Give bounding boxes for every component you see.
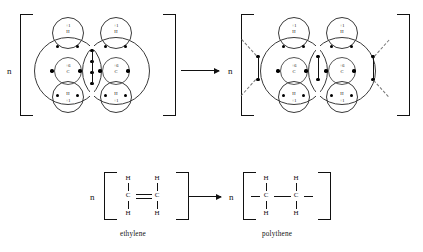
polythene-bracket-close <box>318 172 331 220</box>
polythene-bond-top-left <box>266 183 267 191</box>
dashed-chain-lower-right <box>373 80 388 97</box>
hydrogen-charge-top-right-2: +1 <box>326 24 358 28</box>
ethylene-caption: ethylene <box>120 230 146 238</box>
carbon-charge-left: +6 <box>54 64 82 68</box>
polythene-chain-bond-right <box>304 196 313 197</box>
ethylene-double-bond-upper <box>136 194 152 195</box>
reaction-arrow-top <box>181 70 219 71</box>
ethylene-bond-bottom-left <box>128 201 129 209</box>
polythene-hydrogen-bottom-right: H <box>291 210 301 217</box>
right-structure-multiplier: n <box>228 66 233 76</box>
ethylene-carbon-left: C <box>123 192 133 199</box>
ethylene-bracket-open <box>104 172 117 220</box>
carbon-charge-right-2: +6 <box>328 64 356 68</box>
polythene-bond-top-right <box>296 183 297 191</box>
polythene-chain-bond-left <box>251 196 260 197</box>
ethylene-hydrogen-bottom-right: H <box>152 210 162 217</box>
left-bracket-close <box>163 14 176 116</box>
polythene-bond-bottom-right <box>296 201 297 209</box>
polythene-multiplier: n <box>229 192 234 202</box>
left-bracket-open <box>20 14 33 116</box>
polythene-hydrogen-bottom-left: H <box>261 210 271 217</box>
electron-inner-left-1 <box>50 69 53 72</box>
ethylene-hydrogen-top-left: H <box>123 175 133 182</box>
right-bracket-open <box>241 14 254 116</box>
ethylene-hydrogen-top-right: H <box>152 175 162 182</box>
polythene-carbon-left: C <box>261 192 271 199</box>
chain-connector-left <box>258 57 259 79</box>
polythene-bond-bottom-left <box>266 201 267 209</box>
left-structure-multiplier: n <box>7 66 12 76</box>
hydrogen-label-top-left: H <box>52 30 84 35</box>
electron-inner-right-2a <box>324 69 327 72</box>
carbon-charge-right: +6 <box>102 64 130 68</box>
shared-pair-connector <box>92 51 93 84</box>
chain-connector-right <box>373 57 374 79</box>
electron-inner-right-1 <box>98 69 101 72</box>
reaction-arrow-bottom <box>189 196 221 197</box>
hydrogen-label-top-right: H <box>100 30 132 35</box>
shared-pair-connector-2 <box>318 57 319 79</box>
carbon-charge-left-2: +6 <box>280 64 308 68</box>
electron-inner-left-2a <box>276 69 279 72</box>
dashed-chain-upper-right <box>374 40 389 57</box>
electron-inner-right-2b <box>352 69 355 72</box>
hydrogen-label-top-right-2: H <box>326 30 358 35</box>
electron-inner-right-2 <box>126 69 129 72</box>
ethylene-bond-top-right <box>157 183 158 191</box>
polythene-carbon-right: C <box>291 192 301 199</box>
polythene-hydrogen-top-left: H <box>261 175 271 182</box>
electron-inner-left-2 <box>78 69 81 72</box>
ethylene-bond-bottom-right <box>157 201 158 209</box>
hydrogen-charge-top-left: +1 <box>52 24 84 28</box>
hydrogen-charge-top-right: +1 <box>100 24 132 28</box>
ethylene-multiplier: n <box>90 192 95 202</box>
polythene-hydrogen-top-right: H <box>291 175 301 182</box>
electron-inner-left-2b <box>304 69 307 72</box>
ethylene-carbon-right: C <box>152 192 162 199</box>
ethylene-bond-top-left <box>128 183 129 191</box>
diagram-canvas: n +1 H +1 H H +1 H +1 +6 C +6 C n <box>0 0 423 252</box>
ethylene-hydrogen-bottom-left: H <box>123 210 133 217</box>
polythene-single-bond-center <box>274 196 291 197</box>
hydrogen-label-top-left-2: H <box>278 30 310 35</box>
polythene-caption: polythene <box>262 230 292 238</box>
ethylene-double-bond-lower <box>136 198 152 199</box>
hydrogen-charge-top-left-2: +1 <box>278 24 310 28</box>
ethylene-bracket-close <box>176 172 189 220</box>
right-bracket-close <box>397 14 410 116</box>
